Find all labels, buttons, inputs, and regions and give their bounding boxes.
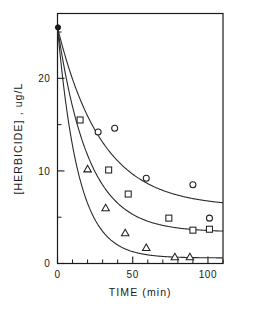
initial-concentration-marker bbox=[55, 25, 60, 30]
x-tick-label: 50 bbox=[127, 269, 139, 280]
data-point-circle bbox=[95, 129, 101, 135]
data-point-circle bbox=[143, 175, 149, 181]
data-point-square bbox=[190, 227, 196, 233]
data-point-square bbox=[77, 117, 83, 123]
data-point-circle bbox=[206, 215, 212, 221]
data-point-triangle bbox=[186, 253, 194, 260]
x-tick-label: 0 bbox=[54, 269, 60, 280]
data-point-triangle bbox=[143, 244, 151, 251]
herbicide-decay-figure: 05010001020TIME (min)[HERBICIDE] , ug/L bbox=[0, 0, 255, 319]
data-point-square bbox=[166, 215, 172, 221]
fit-curve-squares bbox=[58, 27, 224, 231]
y-tick-label: 20 bbox=[38, 73, 50, 84]
data-markers-group bbox=[55, 25, 212, 260]
data-point-triangle bbox=[84, 165, 92, 172]
data-point-circle bbox=[112, 125, 118, 131]
data-point-square bbox=[125, 191, 131, 197]
fit-curve-circles bbox=[58, 27, 224, 202]
x-tick-label: 100 bbox=[199, 269, 218, 280]
fit-curve-triangles bbox=[58, 27, 224, 257]
fit-curves-group bbox=[58, 27, 224, 257]
x-axis-title: TIME (min) bbox=[109, 286, 172, 298]
data-point-square bbox=[106, 167, 112, 173]
chart-canvas: 05010001020TIME (min)[HERBICIDE] , ug/L bbox=[0, 0, 255, 319]
data-point-triangle bbox=[102, 204, 110, 211]
y-tick-label: 0 bbox=[44, 258, 50, 269]
data-point-triangle bbox=[121, 229, 129, 236]
data-point-circle bbox=[190, 182, 196, 188]
axes-group bbox=[58, 14, 224, 264]
plot-frame bbox=[58, 14, 224, 264]
y-axis-title: [HERBICIDE] , ug/L bbox=[12, 83, 24, 195]
y-tick-label: 10 bbox=[38, 166, 50, 177]
data-point-square bbox=[206, 226, 212, 232]
